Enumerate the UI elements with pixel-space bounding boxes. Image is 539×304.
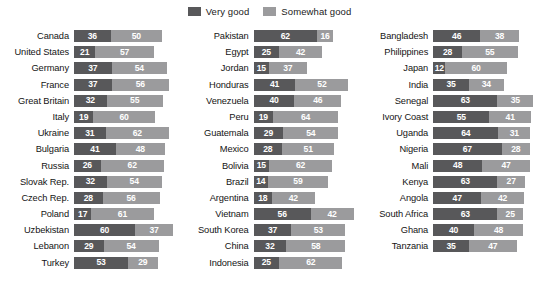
chart-row: Philippines2855 xyxy=(359,46,539,58)
bar-segment-somewhat-good: 50 xyxy=(111,30,162,42)
bar-value-somewhat-good: 28 xyxy=(511,145,520,154)
bar-value-somewhat-good: 48 xyxy=(136,145,145,154)
bar-value-somewhat-good: 62 xyxy=(306,258,315,267)
chart-row: United States2157 xyxy=(0,46,180,58)
bar-segment-somewhat-good: 54 xyxy=(112,62,167,74)
bar-value-somewhat-good: 54 xyxy=(135,64,144,73)
bar-segment-very-good: 63 xyxy=(433,208,497,220)
bar-value-very-good: 62 xyxy=(281,32,290,41)
bar-segment-very-good: 67 xyxy=(433,143,501,155)
bar-value-somewhat-good: 60 xyxy=(119,113,128,122)
bar-value-very-good: 37 xyxy=(88,80,97,89)
chart-row: Czech Rep.2856 xyxy=(0,192,180,204)
bar-value-very-good: 21 xyxy=(80,48,89,57)
bar-segment-somewhat-good: 25 xyxy=(497,208,523,220)
bar-value-very-good: 29 xyxy=(264,129,273,138)
bar-value-somewhat-good: 27 xyxy=(507,177,516,186)
stacked-bar: 3258 xyxy=(254,240,360,252)
bar-segment-somewhat-good: 47 xyxy=(469,240,517,252)
stacked-bar: 1260 xyxy=(433,62,539,74)
bar-value-somewhat-good: 58 xyxy=(311,242,320,251)
bar-value-somewhat-good: 42 xyxy=(328,210,337,219)
bar-value-somewhat-good: 57 xyxy=(120,48,129,57)
stacked-bar: 1960 xyxy=(74,111,180,123)
country-label: Ghana xyxy=(359,225,433,235)
bar-value-very-good: 17 xyxy=(78,210,87,219)
chart-row: Peru1964 xyxy=(180,111,360,123)
bar-segment-somewhat-good: 38 xyxy=(480,30,519,42)
bar-value-very-good: 63 xyxy=(461,177,470,186)
stacked-bar: 6728 xyxy=(433,143,539,155)
bar-segment-somewhat-good: 37 xyxy=(269,62,307,74)
chart-row: Mexico2851 xyxy=(180,143,360,155)
chart-row: Vietnam5642 xyxy=(180,208,360,220)
bar-value-very-good: 32 xyxy=(86,96,95,105)
bar-segment-very-good: 62 xyxy=(254,30,317,42)
bar-value-somewhat-good: 42 xyxy=(289,194,298,203)
bar-value-very-good: 41 xyxy=(90,145,99,154)
chart-row: Venezuela4046 xyxy=(180,95,360,107)
country-label: Poland xyxy=(0,209,74,219)
bar-segment-very-good: 28 xyxy=(254,143,283,155)
country-label: Italy xyxy=(0,112,74,122)
bar-value-very-good: 40 xyxy=(269,96,278,105)
country-label: Turkey xyxy=(0,258,74,268)
bar-segment-somewhat-good: 57 xyxy=(95,46,153,58)
bar-value-somewhat-good: 56 xyxy=(136,80,145,89)
bar-value-somewhat-good: 47 xyxy=(488,242,497,251)
bar-segment-somewhat-good: 42 xyxy=(311,208,354,220)
bar-segment-very-good: 37 xyxy=(74,62,112,74)
chart-row: Brazil1459 xyxy=(180,176,360,188)
chart-row: Egypt2542 xyxy=(180,46,360,58)
country-label: India xyxy=(359,80,433,90)
bar-value-somewhat-good: 62 xyxy=(128,161,137,170)
bar-value-very-good: 37 xyxy=(268,226,277,235)
bar-value-somewhat-good: 52 xyxy=(317,80,326,89)
bar-segment-somewhat-good: 62 xyxy=(106,127,169,139)
bar-segment-somewhat-good: 48 xyxy=(116,143,165,155)
bar-value-somewhat-good: 56 xyxy=(127,194,136,203)
stacked-bar: 4152 xyxy=(254,79,360,91)
bar-value-very-good: 28 xyxy=(84,194,93,203)
bar-value-very-good: 19 xyxy=(259,113,268,122)
bar-segment-somewhat-good: 51 xyxy=(282,143,334,155)
stacked-bar: 2157 xyxy=(74,46,180,58)
bar-value-somewhat-good: 62 xyxy=(296,161,305,170)
country-label: China xyxy=(180,241,254,251)
bar-value-very-good: 60 xyxy=(100,226,109,235)
bar-segment-somewhat-good: 60 xyxy=(445,62,506,74)
bar-segment-somewhat-good: 52 xyxy=(295,79,348,91)
stacked-bar: 2954 xyxy=(74,240,180,252)
country-label: Canada xyxy=(0,31,74,41)
country-label: Brazil xyxy=(180,177,254,187)
bar-value-somewhat-good: 34 xyxy=(482,80,491,89)
chart-row: China3258 xyxy=(180,240,360,252)
bar-value-somewhat-good: 25 xyxy=(506,210,515,219)
chart-row: Japan1260 xyxy=(359,62,539,74)
bar-value-very-good: 41 xyxy=(270,80,279,89)
chart-row: Canada3650 xyxy=(0,30,180,42)
chart-column-2: Pakistan6216Egypt2542Jordan1537Honduras4… xyxy=(180,30,360,304)
stacked-bar: 1562 xyxy=(254,160,360,172)
bar-segment-somewhat-good: 61 xyxy=(91,208,153,220)
bar-value-very-good: 15 xyxy=(257,161,266,170)
bar-segment-very-good: 56 xyxy=(254,208,311,220)
chart-row: Mali4847 xyxy=(359,160,539,172)
bar-value-very-good: 29 xyxy=(84,242,93,251)
stacked-bar: 2851 xyxy=(254,143,360,155)
bar-segment-somewhat-good: 47 xyxy=(482,160,530,172)
bar-segment-somewhat-good: 16 xyxy=(317,30,333,42)
chart-row: India3534 xyxy=(359,79,539,91)
bar-segment-very-good: 25 xyxy=(254,257,280,269)
bar-segment-very-good: 53 xyxy=(74,257,128,269)
chart-row: Kenya6327 xyxy=(359,176,539,188)
bar-segment-very-good: 35 xyxy=(433,240,469,252)
bar-value-somewhat-good: 62 xyxy=(133,129,142,138)
bar-segment-very-good: 35 xyxy=(433,79,469,91)
stacked-bar: 3255 xyxy=(74,95,180,107)
country-label: Kenya xyxy=(359,177,433,187)
chart-row: Ukraine3162 xyxy=(0,127,180,139)
stacked-bar: 6216 xyxy=(254,30,360,42)
bar-segment-very-good: 64 xyxy=(433,127,498,139)
country-label: Peru xyxy=(180,112,254,122)
